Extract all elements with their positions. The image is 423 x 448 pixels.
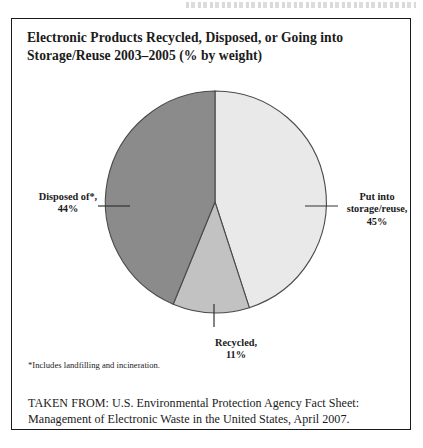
pie-label-recycled-line1: Recycled, (190, 337, 282, 349)
page-header-remnant (186, 2, 416, 8)
pie-label-disposed-of: Disposed of*, 44% (16, 191, 120, 216)
figure-source-note: TAKEN FROM: U.S. Environmental Protectio… (28, 395, 400, 428)
pie-label-disposed-of-line2: 44% (16, 203, 120, 215)
pie-label-recycled-line2: 11% (190, 349, 282, 361)
figure-footnote: *Includes landfilling and incineration. (28, 360, 160, 371)
pie-label-storage-reuse-line2: storage/reuse, (342, 203, 412, 215)
pie-label-storage-reuse-line1: Put into (342, 191, 412, 203)
pie-label-storage-reuse-line3: 45% (342, 216, 412, 228)
pie-label-disposed-of-line1: Disposed of*, (16, 191, 120, 203)
pie-label-recycled: Recycled, 11% (190, 337, 282, 362)
figure-box: Electronic Products Recycled, Disposed, … (11, 18, 411, 430)
pie-label-storage-reuse: Put into storage/reuse, 45% (342, 191, 412, 228)
pie-chart-svg (92, 77, 338, 327)
